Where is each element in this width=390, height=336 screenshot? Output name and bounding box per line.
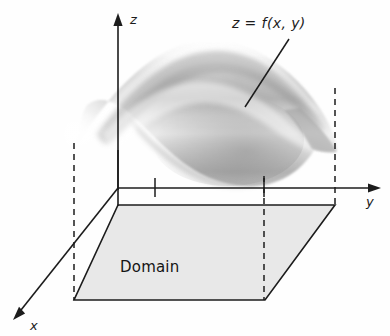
surface-sheet: [64, 41, 337, 188]
surface-domain-figure: z y x z = f(x, y) Domain: [0, 0, 390, 336]
y-axis-label: y: [365, 194, 374, 209]
figure-canvas: z y x z = f(x, y) Domain: [0, 0, 390, 336]
z-axis-arrowhead: [113, 13, 122, 26]
surface-left-lip-highlight: [64, 112, 120, 156]
y-axis-arrowhead: [368, 183, 381, 192]
domain-label: Domain: [120, 258, 179, 276]
x-axis-label: x: [29, 318, 38, 333]
x-axis-arrowhead: [13, 307, 25, 320]
domain-region: [74, 205, 335, 300]
surface-equation-label: z = f(x, y): [231, 15, 306, 31]
z-axis-label: z: [129, 12, 138, 27]
domain-polygon: [74, 205, 335, 300]
